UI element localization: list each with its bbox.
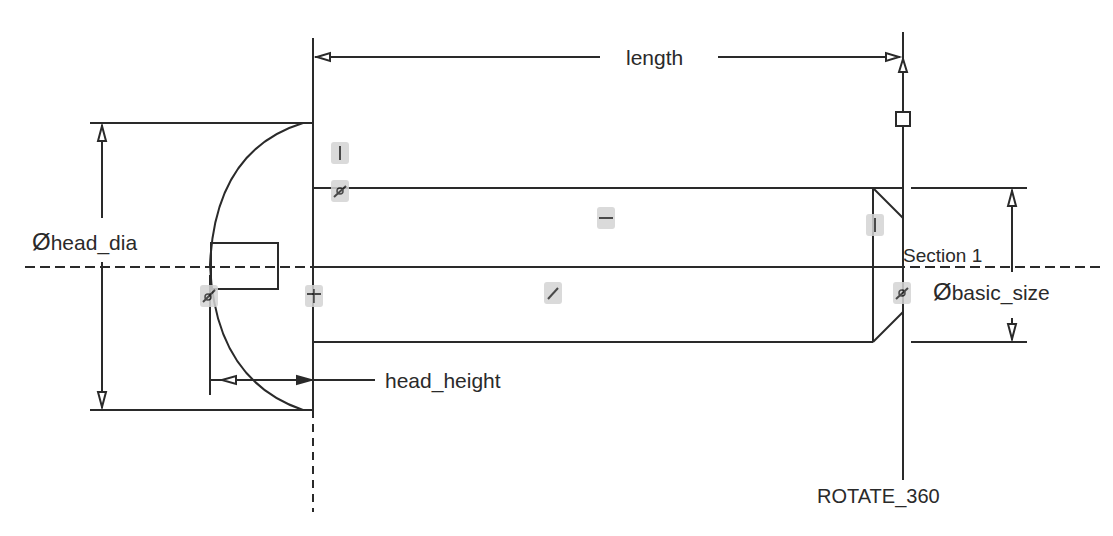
rotate-label: ROTATE_360 xyxy=(817,486,940,506)
vertical-constraint-icon[interactable] xyxy=(866,214,884,236)
basic-size-dimension-label[interactable]: Øbasic_size xyxy=(933,280,1050,304)
arrow-right-icon xyxy=(297,376,311,384)
diameter-symbol-icon: Ø xyxy=(933,278,952,305)
arrow-up-icon xyxy=(98,126,106,141)
arrow-left-icon xyxy=(222,376,236,384)
chamfer-bottom[interactable] xyxy=(873,312,903,342)
head-height-dimension-label[interactable]: head_height xyxy=(385,370,501,391)
arrow-up-icon xyxy=(1008,191,1016,206)
arrow-down-icon xyxy=(899,59,907,72)
parallel-constraint-icon[interactable] xyxy=(305,285,323,307)
diameter-symbol-icon: Ø xyxy=(32,228,51,255)
tangent-constraint-icon[interactable] xyxy=(331,180,349,202)
basic-size-text: basic_size xyxy=(952,281,1050,304)
horizontal-constraint-icon[interactable] xyxy=(597,207,615,229)
arrow-down-icon xyxy=(98,392,106,407)
tangent-constraint-icon[interactable] xyxy=(544,282,562,304)
sketch-geometry xyxy=(0,0,1113,536)
arrow-left-icon xyxy=(317,53,330,61)
arrow-right-icon xyxy=(886,53,899,61)
sketch-canvas[interactable]: length Øhead_dia head_height Øbasic_size… xyxy=(0,0,1113,536)
arrow-down-icon xyxy=(1008,324,1016,339)
head-dia-text: head_dia xyxy=(51,231,137,254)
head-height-text: head_height xyxy=(385,369,501,392)
tangent-constraint-icon[interactable] xyxy=(200,285,218,307)
rotate-text: ROTATE_360 xyxy=(817,485,940,507)
tangent-constraint-icon[interactable] xyxy=(893,282,911,304)
length-dimension-label[interactable]: length xyxy=(626,47,683,68)
vertical-constraint-icon[interactable] xyxy=(331,142,349,164)
head-dia-dimension-label[interactable]: Øhead_dia xyxy=(32,230,137,254)
section-label: Section 1 xyxy=(903,246,982,265)
length-text: length xyxy=(626,46,683,69)
point-marker-icon[interactable] xyxy=(896,112,910,126)
section-text: Section 1 xyxy=(903,245,982,266)
